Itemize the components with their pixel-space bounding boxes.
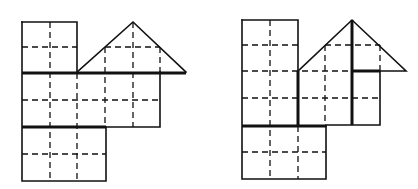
puzzle-diagram xyxy=(0,0,418,189)
background xyxy=(0,0,418,189)
